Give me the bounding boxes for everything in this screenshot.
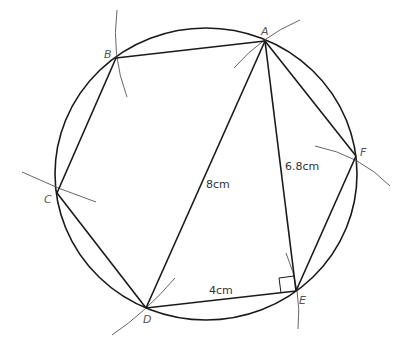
- right-angle-marker: [279, 276, 294, 293]
- measurement-ad: 8cm: [206, 178, 230, 191]
- side-cd: [57, 193, 146, 308]
- side-fa: [265, 41, 356, 156]
- measurement-ae: 6.8cm: [285, 160, 319, 173]
- point-label-a: A: [260, 25, 269, 38]
- diagonal-ad: [146, 41, 265, 308]
- point-label-d: D: [143, 313, 151, 326]
- measurement-de: 4cm: [209, 284, 233, 297]
- point-label-f: F: [360, 146, 367, 159]
- point-label-b: B: [104, 48, 112, 61]
- point-label-c: C: [44, 193, 52, 206]
- side-ef: [296, 156, 356, 291]
- hexagon-lines: [57, 41, 356, 308]
- side-bc: [57, 58, 116, 193]
- point-label-e: E: [299, 294, 306, 307]
- hexagon-construction-diagram: A B C D E F 8cm 6.8cm 4cm: [0, 0, 406, 346]
